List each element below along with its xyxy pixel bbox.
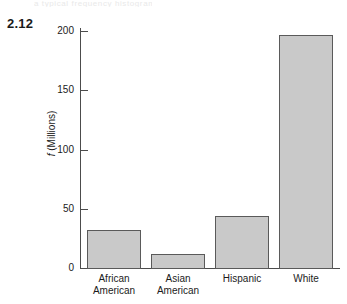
y-axis-title-units: (Millions) <box>46 111 57 154</box>
bar-african-american <box>87 230 141 269</box>
y-tick-200 <box>81 31 88 32</box>
y-tick-150 <box>81 90 88 91</box>
bar-hispanic <box>215 216 269 269</box>
bar-chart-plot-area: 050100150200 f (Millions) AfricanAmerica… <box>0 0 347 304</box>
y-axis-line <box>80 28 81 269</box>
bar-white <box>279 35 333 269</box>
y-tick-label-0: 0 <box>40 262 74 273</box>
category-label-line: American <box>133 285 223 297</box>
bar-asian-american <box>151 254 205 269</box>
y-axis-title-symbol: f <box>46 154 57 157</box>
category-label-white: White <box>261 273 347 285</box>
y-tick-label-50: 50 <box>40 203 74 214</box>
category-label-line: White <box>261 273 347 285</box>
y-tick-50 <box>81 209 88 210</box>
y-axis-title: f (Millions) <box>46 79 57 189</box>
y-tick-100 <box>81 150 88 151</box>
figure-2-12: a typical frequency histogram 2.12 05010… <box>0 0 347 304</box>
y-tick-label-200: 200 <box>40 25 74 36</box>
